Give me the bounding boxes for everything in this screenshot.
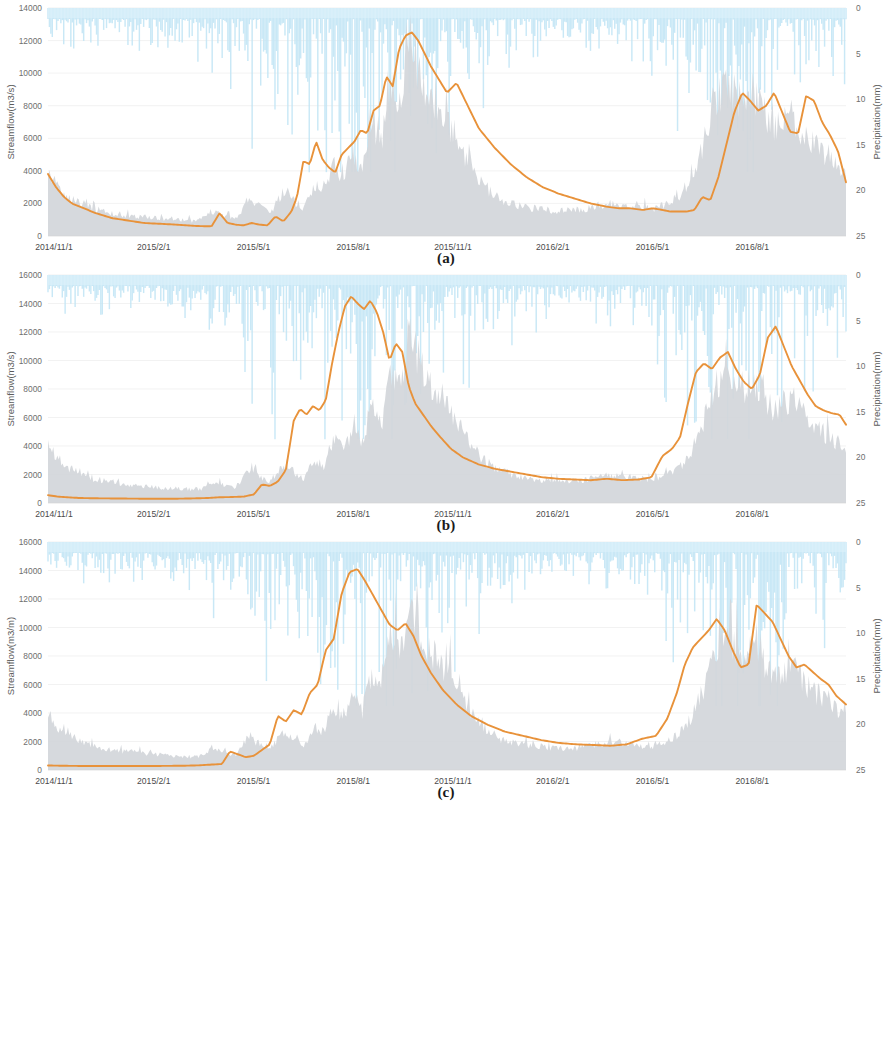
y-axis-left: 0200040006000800010000120001400016000: [19, 537, 43, 775]
y2-tick-label: 20: [856, 452, 866, 462]
y2-tick-label: 0: [856, 537, 861, 547]
x-tick-label: 2016/5/1: [636, 242, 670, 250]
y-axis-left: 0200040006000800010000120001400016000: [19, 270, 43, 508]
observed-streamflow-area: [48, 319, 846, 503]
y2-tick-label: 5: [856, 583, 861, 593]
chart-plot-area: 0200040006000800010000120001400016000Str…: [0, 534, 892, 784]
y2-tick-label: 5: [856, 316, 861, 326]
x-tick-label: 2014/11/1: [35, 242, 73, 250]
y-tick-label: 4000: [23, 708, 42, 718]
y-tick-label: 6000: [23, 133, 42, 143]
y-tick-label: 14000: [19, 3, 43, 13]
y-axis-title: Streamflow(m3/m): [5, 617, 16, 695]
y-tick-label: 8000: [23, 101, 42, 111]
x-tick-label: 2016/5/1: [636, 509, 670, 517]
y-tick-label: 14000: [19, 299, 43, 309]
x-tick-label: 2016/2/1: [536, 242, 570, 250]
x-tick-label: 2015/11/1: [434, 776, 472, 784]
y-tick-label: 12000: [19, 594, 43, 604]
y-axis-title: Streamflow(m3/s): [5, 351, 16, 426]
y-tick-label: 12000: [19, 327, 43, 337]
figure-hydrograph-comparison: 02000400060008000100001200014000Streamfl…: [0, 0, 892, 1046]
y-axis-right: 0510152025: [856, 3, 866, 241]
x-tick-label: 2014/11/1: [35, 509, 73, 517]
x-axis-ticks: 2014/11/12015/2/12015/5/12015/8/12015/11…: [35, 509, 769, 517]
y2-tick-label: 10: [856, 361, 866, 371]
x-tick-label: 2016/5/1: [636, 776, 670, 784]
y2-axis-title: Precipitation(mm): [871, 351, 882, 426]
chart-panel-a: 02000400060008000100001200014000Streamfl…: [0, 0, 892, 267]
chart-plot-area: 02000400060008000100001200014000Streamfl…: [0, 0, 892, 250]
y-axis-right: 0510152025: [856, 270, 866, 508]
x-tick-label: 2015/2/1: [137, 242, 171, 250]
y2-tick-label: 20: [856, 185, 866, 195]
x-tick-label: 2015/8/1: [337, 242, 371, 250]
y2-tick-label: 10: [856, 628, 866, 638]
y2-tick-label: 10: [856, 94, 866, 104]
x-tick-label: 2014/11/1: [35, 776, 73, 784]
y2-tick-label: 5: [856, 49, 861, 59]
panel-caption: (b): [0, 517, 892, 534]
x-tick-label: 2015/5/1: [237, 776, 271, 784]
y2-tick-label: 20: [856, 719, 866, 729]
y-axis-title: Streamflow(m3/s): [5, 84, 16, 159]
y-tick-label: 10000: [19, 68, 43, 78]
panel-caption: (c): [0, 784, 892, 801]
y-tick-label: 2000: [23, 737, 42, 747]
x-tick-label: 2016/8/1: [736, 509, 770, 517]
x-tick-label: 2016/2/1: [536, 509, 570, 517]
y-tick-label: 4000: [23, 441, 42, 451]
y-tick-label: 0: [37, 765, 42, 775]
y-tick-label: 0: [37, 498, 42, 508]
y-tick-label: 6000: [23, 680, 42, 690]
y-tick-label: 6000: [23, 413, 42, 423]
y-axis-left: 02000400060008000100001200014000: [19, 3, 43, 241]
x-tick-label: 2016/2/1: [536, 776, 570, 784]
y-tick-label: 14000: [19, 566, 43, 576]
y2-tick-label: 0: [856, 270, 861, 280]
y-tick-label: 10000: [19, 623, 43, 633]
y-tick-label: 2000: [23, 470, 42, 480]
x-tick-label: 2016/8/1: [736, 242, 770, 250]
y2-tick-label: 15: [856, 140, 866, 150]
y-tick-label: 4000: [23, 166, 42, 176]
y-tick-label: 16000: [19, 270, 43, 280]
x-tick-label: 2015/8/1: [337, 776, 371, 784]
x-axis-ticks: 2014/11/12015/2/12015/5/12015/8/12015/11…: [35, 776, 769, 784]
y-tick-label: 12000: [19, 36, 43, 46]
y-tick-label: 0: [37, 231, 42, 241]
chart-panel-c: 0200040006000800010000120001400016000Str…: [0, 534, 892, 801]
x-tick-label: 2015/2/1: [137, 776, 171, 784]
chart-panel-b: 0200040006000800010000120001400016000Str…: [0, 267, 892, 534]
y-tick-label: 16000: [19, 537, 43, 547]
y2-axis-title: Precipitation(mm): [871, 618, 882, 693]
y-tick-label: 8000: [23, 384, 42, 394]
y-tick-label: 10000: [19, 356, 43, 366]
x-tick-label: 2015/5/1: [237, 509, 271, 517]
x-tick-label: 2015/5/1: [237, 242, 271, 250]
panel-caption: (a): [0, 250, 892, 267]
y2-tick-label: 15: [856, 407, 866, 417]
x-tick-label: 2016/8/1: [736, 776, 770, 784]
x-tick-label: 2015/11/1: [434, 509, 472, 517]
hydrograph-svg: 0200040006000800010000120001400016000Str…: [0, 534, 892, 784]
y2-tick-label: 25: [856, 498, 866, 508]
y2-tick-label: 0: [856, 3, 861, 13]
chart-plot-area: 0200040006000800010000120001400016000Str…: [0, 267, 892, 517]
x-axis-ticks: 2014/11/12015/2/12015/5/12015/8/12015/11…: [35, 242, 769, 250]
y2-tick-label: 25: [856, 231, 866, 241]
y-tick-label: 8000: [23, 651, 42, 661]
y-axis-right: 0510152025: [856, 537, 866, 775]
hydrograph-svg: 0200040006000800010000120001400016000Str…: [0, 267, 892, 517]
x-tick-label: 2015/2/1: [137, 509, 171, 517]
y2-axis-title: Precipitation(mm): [871, 84, 882, 159]
x-tick-label: 2015/11/1: [434, 242, 472, 250]
y2-tick-label: 25: [856, 765, 866, 775]
x-tick-label: 2015/8/1: [337, 509, 371, 517]
hydrograph-svg: 02000400060008000100001200014000Streamfl…: [0, 0, 892, 250]
y2-tick-label: 15: [856, 674, 866, 684]
y-tick-label: 2000: [23, 198, 42, 208]
